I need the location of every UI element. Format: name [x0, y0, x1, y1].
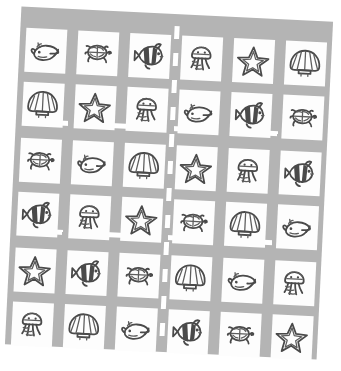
shell-icon	[66, 309, 102, 345]
card-row-left-half	[16, 80, 174, 134]
card-starfish[interactable]	[270, 314, 313, 360]
card-clownfish[interactable]	[229, 92, 272, 138]
card-jellyfish[interactable]	[68, 194, 111, 240]
clownfish-icon	[19, 197, 55, 233]
whale-icon	[225, 263, 261, 299]
card-row-left-half	[10, 190, 168, 244]
jellyfish-icon	[14, 307, 50, 343]
card-turtle[interactable]	[172, 199, 215, 245]
card-clownfish[interactable]	[278, 150, 321, 196]
card-jellyfish[interactable]	[226, 148, 269, 194]
jellyfish-icon	[230, 153, 266, 189]
card-starfish[interactable]	[232, 38, 275, 84]
card-row	[18, 27, 332, 88]
card-starfish[interactable]	[120, 197, 163, 243]
jellyfish-icon	[183, 41, 219, 77]
card-jellyfish[interactable]	[180, 35, 223, 81]
whale-icon	[118, 312, 154, 348]
starfish-icon	[123, 202, 159, 238]
card-whale[interactable]	[70, 140, 113, 186]
card-clownfish[interactable]	[16, 192, 59, 238]
turtle-icon	[22, 143, 58, 179]
clownfish-icon	[170, 314, 206, 350]
card-row-left-half	[18, 27, 176, 81]
shell-icon	[25, 87, 61, 123]
jellyfish-icon	[276, 265, 312, 301]
shell-icon	[173, 260, 209, 296]
card-row-right-half	[166, 198, 324, 252]
card-shell[interactable]	[21, 82, 64, 128]
card-row-right-half	[169, 144, 327, 198]
card-row-right-half	[174, 34, 332, 88]
card-row	[5, 300, 319, 361]
turtle-icon	[285, 100, 321, 136]
clownfish-icon	[282, 156, 318, 192]
card-jellyfish[interactable]	[273, 260, 316, 306]
card-whale[interactable]	[177, 89, 220, 135]
card-clownfish[interactable]	[128, 33, 171, 79]
card-row-left-half	[5, 300, 163, 354]
card-row-right-half	[163, 254, 321, 308]
card-starfish[interactable]	[13, 248, 56, 294]
clownfish-icon	[69, 255, 105, 291]
clownfish-icon	[233, 97, 269, 133]
starfish-icon	[235, 43, 271, 79]
card-clownfish[interactable]	[65, 250, 108, 296]
clownfish-icon	[131, 38, 167, 74]
turtle-icon	[121, 258, 157, 294]
shell-icon	[227, 207, 263, 243]
card-grid	[5, 7, 333, 360]
starfish-icon	[274, 319, 310, 355]
card-turtle[interactable]	[117, 253, 160, 299]
card-row-right-half	[161, 308, 319, 362]
card-turtle[interactable]	[76, 30, 119, 76]
card-clownfish[interactable]	[166, 309, 209, 355]
card-board	[5, 7, 333, 360]
card-shell[interactable]	[62, 304, 105, 350]
card-row-left-half	[13, 136, 171, 190]
turtle-icon	[79, 36, 115, 72]
card-row-right-half	[171, 88, 329, 142]
card-shell[interactable]	[283, 41, 326, 87]
card-jellyfish[interactable]	[10, 301, 53, 347]
whale-icon	[181, 95, 217, 131]
card-shell[interactable]	[224, 202, 267, 248]
card-whale[interactable]	[221, 258, 264, 304]
card-whale[interactable]	[275, 204, 318, 250]
jellyfish-icon	[129, 92, 165, 128]
scene-canvas	[0, 0, 341, 371]
card-whale[interactable]	[24, 28, 67, 74]
card-shell[interactable]	[169, 255, 212, 301]
starfish-icon	[77, 89, 113, 125]
card-row-left-half	[7, 246, 165, 300]
whale-icon	[28, 33, 64, 69]
card-turtle[interactable]	[281, 94, 324, 140]
turtle-icon	[222, 317, 258, 353]
whale-icon	[279, 209, 315, 245]
starfish-icon	[17, 253, 53, 289]
card-starfish[interactable]	[73, 84, 116, 130]
card-whale[interactable]	[114, 307, 157, 353]
jellyfish-icon	[71, 199, 107, 235]
card-turtle[interactable]	[18, 138, 61, 184]
card-starfish[interactable]	[174, 145, 217, 191]
card-row	[10, 190, 324, 251]
card-turtle[interactable]	[218, 312, 261, 358]
starfish-icon	[178, 150, 214, 186]
card-row	[16, 80, 330, 141]
whale-icon	[74, 145, 110, 181]
card-shell[interactable]	[122, 143, 165, 189]
card-row	[7, 246, 321, 307]
turtle-icon	[175, 204, 211, 240]
shell-icon	[287, 46, 323, 82]
card-jellyfish[interactable]	[125, 87, 168, 133]
shell-icon	[126, 148, 162, 184]
card-row	[13, 136, 327, 197]
